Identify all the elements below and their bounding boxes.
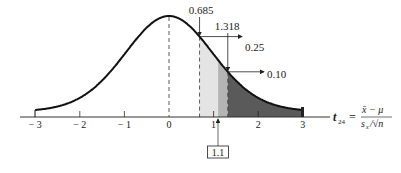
curve-right-end bbox=[301, 107, 304, 117]
t-distribution-chart: − 3− 2− 10123 0.685 0.25 1.318 0.10 1.1 … bbox=[0, 0, 401, 173]
axis-formula: t 24 = x̄ − μ s x /√n bbox=[333, 104, 392, 130]
shaded-area-dark bbox=[228, 72, 303, 117]
formula-numerator: x̄ − μ bbox=[361, 104, 383, 115]
label-area-025: 0.25 bbox=[245, 41, 265, 53]
axis-eq: = bbox=[349, 110, 356, 124]
axis-var: t bbox=[333, 110, 337, 124]
tick-label: 0 bbox=[167, 119, 172, 130]
tick-label: 3 bbox=[300, 119, 305, 130]
tick-label: − 2 bbox=[73, 119, 86, 130]
axis-sub: 24 bbox=[338, 118, 346, 126]
tick-label: − 3 bbox=[29, 119, 42, 130]
formula-den-sub: x bbox=[365, 124, 369, 130]
formula-den-s: s bbox=[361, 118, 365, 129]
label-0685: 0.685 bbox=[189, 4, 214, 16]
label-area-010: 0.10 bbox=[267, 68, 287, 80]
label-1318: 1.318 bbox=[215, 20, 240, 32]
shaded-area-medium bbox=[218, 60, 228, 117]
label-observed: 1.1 bbox=[212, 147, 225, 158]
formula-den-rest: /√n bbox=[369, 118, 383, 129]
tick-label: 1 bbox=[211, 119, 216, 130]
tick-label: − 1 bbox=[118, 119, 131, 130]
tick-label: 2 bbox=[256, 119, 261, 130]
